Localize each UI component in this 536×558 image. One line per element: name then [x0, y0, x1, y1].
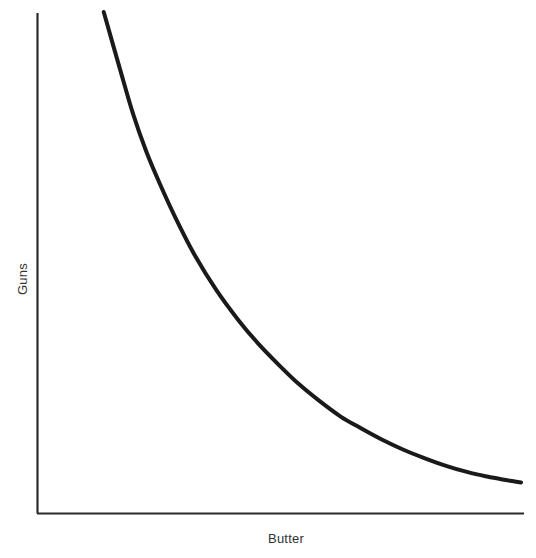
- chart-figure: Guns Butter: [0, 0, 536, 558]
- y-axis-label: Guns: [0, 257, 57, 301]
- x-axis-label: Butter: [210, 531, 362, 546]
- plot-area: [0, 0, 536, 558]
- ppf-curve: [104, 12, 521, 482]
